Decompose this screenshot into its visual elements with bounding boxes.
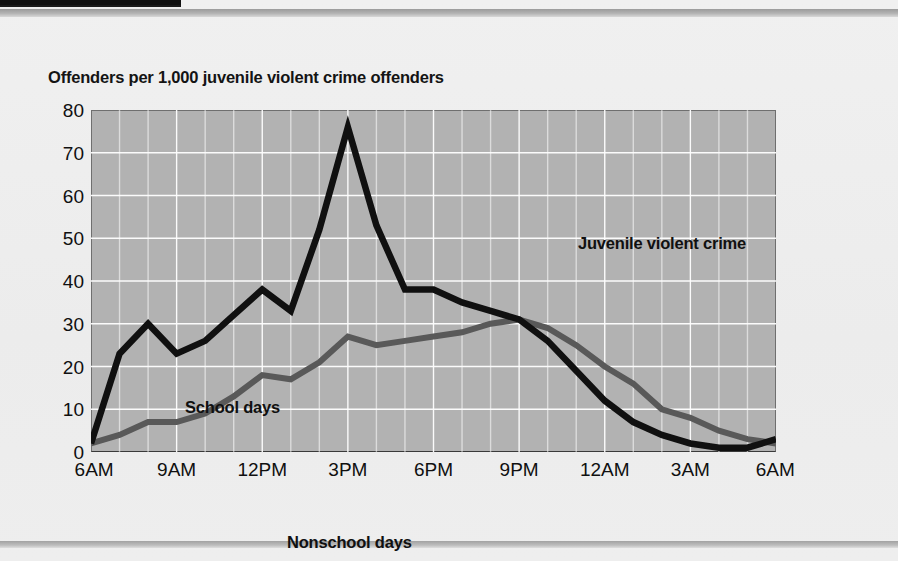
x-tick-label: 6AM — [75, 460, 114, 479]
y-tick-label: 20 — [38, 357, 84, 376]
top-black-tab-fill — [0, 0, 181, 5]
x-tick-label: 6PM — [414, 460, 453, 479]
x-axis-tick-labels: 6AM9AM12PM3PM6PM9PM12AM3AM6AM — [91, 460, 776, 490]
y-tick-label: 10 — [38, 400, 84, 419]
chart-figure: Offenders per 1,000 juvenile violent cri… — [0, 20, 898, 535]
page-background: Offenders per 1,000 juvenile violent cri… — [0, 0, 898, 561]
x-tick-label: 12AM — [580, 460, 630, 479]
top-horizontal-rule — [0, 9, 898, 17]
x-tick-label: 6AM — [756, 460, 795, 479]
plot-area-wrapper: Juvenile violent crime School days Nonsc… — [91, 110, 776, 452]
x-tick-label: 3PM — [328, 460, 367, 479]
top-black-tab — [0, 0, 181, 7]
y-tick-label: 50 — [38, 229, 84, 248]
chart-title: Offenders per 1,000 juvenile violent cri… — [48, 68, 444, 87]
y-tick-label: 70 — [38, 143, 84, 162]
x-tick-label: 9AM — [157, 460, 196, 479]
y-tick-label: 80 — [38, 101, 84, 120]
series-label-school: School days — [185, 398, 280, 417]
y-tick-label: 60 — [38, 186, 84, 205]
x-tick-label: 9PM — [500, 460, 539, 479]
y-axis-tick-labels: 01020304050607080 — [36, 110, 84, 452]
y-tick-label: 40 — [38, 272, 84, 291]
chart-annotation-title: Juvenile violent crime — [578, 234, 746, 253]
bottom-horizontal-rule — [0, 541, 898, 548]
x-tick-label: 3AM — [671, 460, 710, 479]
series-label-nonschool: Nonschool days — [287, 533, 412, 552]
y-tick-label: 30 — [38, 314, 84, 333]
series-line-nonschool-days — [91, 319, 776, 443]
x-tick-label: 12PM — [237, 460, 287, 479]
